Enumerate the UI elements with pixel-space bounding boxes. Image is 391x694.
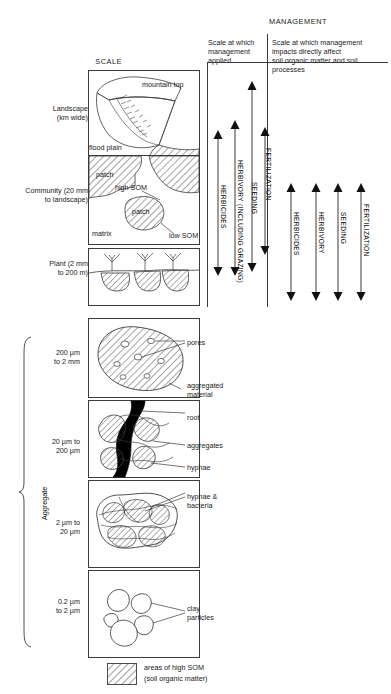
annotation-pores: pores — [187, 338, 205, 347]
panel-aggregate-1 — [88, 318, 200, 398]
annotation-matrix: matrix — [92, 229, 112, 238]
scale-label-aggregate-2: 20 µm to 200 µm — [28, 437, 80, 455]
scale-label-community: Community (20 mm to landscape) — [0, 186, 88, 204]
scale-label-aggregate-1: 200 µm to 2 mm — [30, 348, 80, 366]
annotation-aggregated-material: aggregated material — [187, 381, 223, 399]
annotation-flood-plain: flood plain — [89, 143, 122, 152]
annotation-aggregates: aggregates — [187, 441, 223, 450]
legend-label-line2: (soil organic matter) — [144, 674, 208, 683]
scale-label-landscape: Landscape (km wide) — [10, 104, 88, 122]
annotation-clay-particles: clay particles — [187, 604, 214, 622]
annotation-hyphae-bacteria: hyphae & bacteria — [187, 492, 217, 510]
panel-aggregate-4 — [88, 570, 200, 658]
annotation-mountain-top: mountain top — [142, 80, 184, 89]
scale-label-aggregate-4: 0.2 µm to 2 µm — [30, 597, 80, 615]
leader-low-som — [160, 222, 176, 236]
legend-swatch — [107, 663, 137, 685]
impact-label-herbicides: HERBICIDES — [293, 212, 300, 256]
aggregate-2-drawing — [89, 401, 199, 477]
aggregate-1-drawing — [89, 319, 199, 397]
applied-label-herbicides: HERBICIDES — [220, 185, 227, 229]
aggregate-brace — [18, 336, 32, 648]
column-divider-top — [267, 34, 268, 62]
aggregate-3-drawing — [89, 481, 199, 567]
plant-drawing — [89, 249, 199, 305]
scale-label-plant: Plant (2 mm to 200 m) — [10, 259, 88, 277]
clay-drawing — [89, 571, 199, 657]
annotation-patch-2: patch — [132, 207, 150, 216]
panel-plant — [88, 248, 200, 306]
legend-label-line1: areas of high SOM — [144, 663, 204, 672]
leader-high-som — [140, 190, 162, 202]
column-header-impacts: Scale at which management impacts direct… — [272, 38, 388, 74]
scale-label-aggregate-3: 2 µm to 20 µm — [30, 518, 80, 536]
management-header: MANAGEMENT — [205, 17, 391, 26]
annotation-hyphae: hyphae — [187, 463, 211, 472]
impact-label-seeding: SEEDING — [340, 212, 347, 244]
applied-label-herbivory: HERBIVORY (INCLUDING GRAZING) — [237, 160, 244, 283]
impact-label-herbivory: HERBIVORY — [318, 212, 325, 254]
panel-aggregate-2 — [88, 400, 200, 478]
arrow-applied-seeding — [246, 81, 258, 272]
applied-column-left-rule — [207, 62, 208, 307]
panel-aggregate-3 — [88, 480, 200, 568]
impact-label-fertilization: FERTILIZATION — [363, 204, 370, 257]
aggregate-brace-label: Aggregate — [40, 487, 49, 520]
annotation-root: root — [187, 413, 199, 422]
applied-label-fertilization: FERTILIZATION — [265, 148, 272, 201]
applied-label-seeding: SEEDING — [251, 182, 258, 214]
column-header-applied: Scale at which management applied — [208, 38, 264, 65]
scale-header: SCALE — [42, 57, 122, 66]
annotation-patch-1: patch — [96, 170, 114, 179]
header-rule — [207, 62, 388, 63]
